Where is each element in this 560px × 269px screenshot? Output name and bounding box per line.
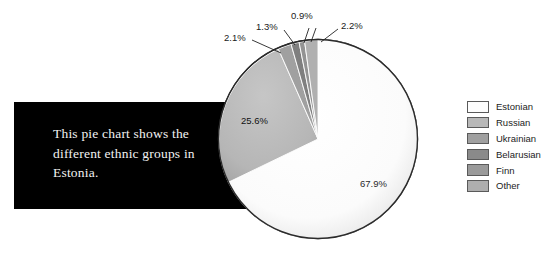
legend: Estonian Russian Ukrainian Belarusian Fi… (467, 99, 541, 194)
label-other: 2.2% (341, 20, 363, 31)
legend-item-russian[interactable]: Russian (467, 115, 541, 131)
legend-label-belarusian: Belarusian (496, 149, 541, 160)
legend-label-ukrainian: Ukrainian (496, 133, 536, 144)
legend-item-finn[interactable]: Finn (467, 162, 541, 178)
legend-label-estonian: Estonian (496, 101, 533, 112)
caption-text: This pie chart shows the different ethni… (53, 124, 238, 183)
legend-label-russian: Russian (496, 117, 530, 128)
label-russian: 25.6% (241, 115, 268, 126)
label-estonian: 67.9% (360, 178, 387, 189)
legend-swatch-finn (467, 164, 489, 176)
pie-chart (217, 38, 419, 240)
legend-label-finn: Finn (496, 165, 514, 176)
legend-swatch-russian (467, 117, 489, 129)
caption-panel: This pie chart shows the different ethni… (15, 103, 245, 208)
legend-item-estonian[interactable]: Estonian (467, 99, 541, 115)
chart-canvas: This pie chart shows the different ethni… (0, 0, 560, 269)
legend-swatch-other (467, 180, 489, 192)
legend-item-other[interactable]: Other (467, 178, 541, 194)
label-ukrainian: 2.1% (224, 32, 246, 43)
legend-item-ukrainian[interactable]: Ukrainian (467, 131, 541, 147)
legend-swatch-ukrainian (467, 133, 489, 145)
label-belarusian: 1.3% (256, 21, 278, 32)
label-finn: 0.9% (291, 10, 313, 21)
legend-label-other: Other (496, 180, 520, 191)
legend-swatch-estonian (467, 101, 489, 113)
legend-swatch-belarusian (467, 149, 489, 161)
legend-item-belarusian[interactable]: Belarusian (467, 146, 541, 162)
